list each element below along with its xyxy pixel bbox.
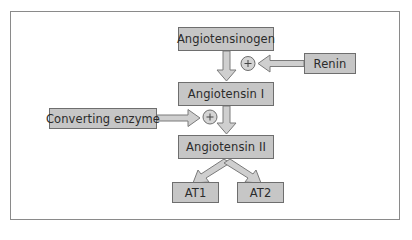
arrow-left-renin xyxy=(258,55,304,72)
node-angiotensin-i: Angiotensin I xyxy=(178,82,274,106)
node-converting-enzyme: Converting enzyme xyxy=(49,108,157,129)
node-at2: AT2 xyxy=(237,182,284,203)
plus-icon-renin xyxy=(241,57,255,71)
node-angiotensin-ii: Angiotensin II xyxy=(178,135,274,159)
node-angiotensinogen: Angiotensinogen xyxy=(178,27,274,51)
node-at1: AT1 xyxy=(172,182,219,203)
arrow-down-angiotensinogen-to-angiotensin-i xyxy=(217,51,236,81)
arrow-right-converting-enzyme xyxy=(157,110,200,127)
arrow-down-angiotensin-i-to-angiotensin-ii xyxy=(217,106,236,134)
plus-icon-converting-enzyme xyxy=(203,110,217,124)
arrow-diagonal-to-at2 xyxy=(224,159,261,183)
node-renin: Renin xyxy=(304,53,356,74)
